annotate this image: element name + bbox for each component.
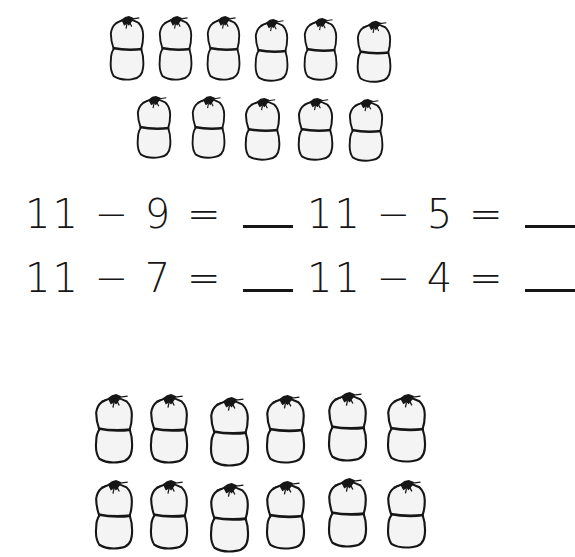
sack-icon bbox=[93, 392, 135, 469]
sack-icon bbox=[264, 393, 307, 469]
sack-icon bbox=[208, 481, 251, 557]
sack-icon bbox=[205, 14, 242, 86]
equation-11-minus-5: 11 − 5 = bbox=[307, 193, 575, 234]
equals-sign: = bbox=[469, 194, 505, 234]
minuend: 11 bbox=[307, 194, 362, 234]
equals-sign: = bbox=[469, 258, 505, 298]
sack-icon bbox=[148, 478, 190, 555]
sack-icon bbox=[355, 19, 393, 88]
sack-icon bbox=[347, 97, 385, 167]
equals-sign: = bbox=[187, 194, 223, 234]
minus-sign: − bbox=[377, 258, 413, 298]
sack-icon bbox=[108, 14, 146, 86]
minus-sign: − bbox=[95, 258, 131, 298]
equation-11-minus-4: 11 − 4 = bbox=[307, 257, 575, 298]
answer-blank[interactable] bbox=[243, 193, 293, 228]
minus-sign: − bbox=[377, 194, 413, 234]
equation-11-minus-9: 11 − 9 = bbox=[25, 193, 293, 234]
answer-blank[interactable] bbox=[525, 257, 575, 292]
subtrahend: 4 bbox=[427, 258, 454, 298]
sack-icon bbox=[264, 479, 307, 555]
sack-icon bbox=[302, 16, 339, 86]
sack-icon bbox=[385, 478, 428, 554]
sack-icon bbox=[190, 94, 227, 164]
sack-icon bbox=[157, 14, 194, 86]
minus-sign: − bbox=[95, 194, 131, 234]
equation-11-minus-7: 11 − 7 = bbox=[25, 257, 293, 298]
subtrahend: 5 bbox=[427, 194, 454, 234]
minuend: 11 bbox=[25, 258, 80, 298]
answer-blank[interactable] bbox=[243, 257, 293, 292]
sack-icon bbox=[296, 96, 335, 166]
sack-icon bbox=[93, 478, 135, 555]
minuend: 11 bbox=[307, 258, 362, 298]
answer-blank[interactable] bbox=[525, 193, 575, 228]
sack-icon bbox=[148, 392, 190, 469]
sack-icon bbox=[385, 392, 428, 468]
subtrahend: 7 bbox=[145, 258, 172, 298]
sack-icon bbox=[326, 476, 369, 553]
equals-sign: = bbox=[187, 258, 223, 298]
subtrahend: 9 bbox=[145, 194, 172, 234]
sack-icon bbox=[135, 94, 173, 164]
sack-icon bbox=[208, 395, 251, 472]
minuend: 11 bbox=[25, 194, 80, 234]
sack-icon bbox=[326, 390, 369, 467]
sack-icon bbox=[253, 17, 290, 87]
sack-icon bbox=[243, 96, 282, 166]
